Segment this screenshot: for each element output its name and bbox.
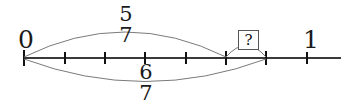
fraction-bottom-denominator: 7 <box>128 83 164 104</box>
unknown-value-text: ? <box>239 31 258 50</box>
fraction-top-denominator: 7 <box>108 25 144 46</box>
fraction-bottom-numerator: 6 <box>128 62 164 83</box>
axis-label-one: 1 <box>303 27 319 52</box>
fraction-label-top: 5 7 <box>108 4 144 47</box>
unknown-value-box: ? <box>238 30 259 50</box>
axis-label-zero: 0 <box>18 27 34 52</box>
number-line-figure: 0 1 5 7 6 7 ? <box>0 0 348 111</box>
fraction-top-numerator: 5 <box>108 4 144 25</box>
fraction-label-bottom: 6 7 <box>128 62 164 105</box>
number-line-graphic <box>0 0 348 111</box>
